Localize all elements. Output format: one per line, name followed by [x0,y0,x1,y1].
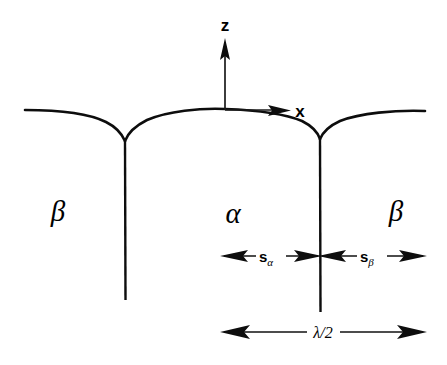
figure-container: z x β α β sα sβ [0,0,447,365]
s-alpha-subscript: α [267,256,273,268]
half-wavelength-label: λ/2 [312,324,332,341]
s-alpha-symbol: s [259,248,267,265]
z-axis-label: z [221,16,230,35]
surface-curve-right-tail [320,111,425,139]
phase-label-beta-right: β [388,195,404,227]
phase-label-alpha-center: α [225,197,241,229]
x-axis-label: x [295,102,305,121]
surface-curve-left-tail [25,110,125,141]
diagram-canvas: z x β α β sα sβ [0,0,447,365]
grain-boundary-left [125,141,126,300]
phase-label-beta-left: β [50,195,66,227]
grain-boundary-group [125,139,321,312]
dimension-s-beta: sβ [318,244,427,268]
s-beta-symbol: s [360,248,368,265]
dimension-s-alpha: sα [220,244,322,268]
surface-profile-group [25,109,425,141]
z-axis-group: z [220,16,230,110]
dimension-half-wavelength: λ/2 [220,320,427,342]
grain-boundary-right [320,139,321,312]
s-beta-subscript: β [367,256,374,268]
surface-curve-central-arch [125,109,320,141]
